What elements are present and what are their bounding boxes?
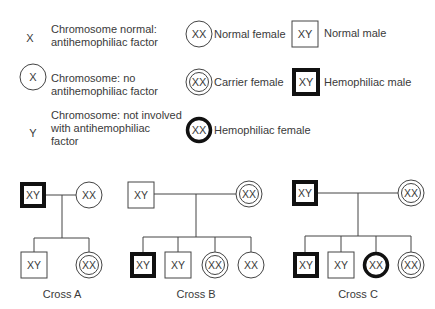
legend-y-desc-2: with antihemophiliac — [50, 122, 151, 134]
cross-c-child-1: XY — [299, 259, 313, 271]
cross-b-child-1: XY — [136, 259, 150, 271]
legend-normal-female-label: Normal female — [214, 28, 286, 40]
cross-c-child-2: XY — [334, 259, 348, 271]
cross-a-child-2: XX — [82, 259, 96, 271]
legend-normal-female-symbol: XX — [192, 28, 207, 40]
cross-a-child-1: XY — [27, 259, 41, 271]
legend-xo-label: X — [29, 71, 37, 83]
legend-x-desc-1: Chromosome normal: — [51, 23, 157, 35]
legend-carrier-female-label: Carrier female — [214, 76, 284, 88]
legend-x-label: X — [26, 32, 34, 44]
legend-xo-desc-1: Chromosome: no — [51, 72, 135, 84]
legend-hemo-female-symbol: XX — [192, 124, 207, 136]
legend-normal-male-symbol: XY — [298, 28, 313, 40]
cross-c-child-3: XX — [369, 259, 383, 271]
cross-b-child-2: XY — [171, 259, 185, 271]
legend-hemo-female-label: Hemophiliac female — [214, 124, 311, 136]
legend-hemo-male-symbol: XY — [299, 76, 314, 88]
legend-y-label: Y — [29, 127, 37, 139]
legend-x-desc-2: antihemophiliac factor — [51, 36, 158, 48]
legend-carrier-female-symbol: XX — [192, 76, 207, 88]
cross-b-mother: XX — [242, 188, 256, 200]
hemophilia-pedigree-diagram: X Chromosome normal: antihemophiliac fac… — [0, 0, 435, 309]
legend-hemo-male-label: Hemophiliac male — [324, 76, 411, 88]
cross-c-child-4: XX — [404, 259, 418, 271]
cross-a-label: Cross A — [43, 288, 82, 300]
cross-c-father: XY — [298, 187, 312, 199]
cross-b-child-4: XX — [244, 259, 258, 271]
cross-c-label: Cross C — [338, 288, 378, 300]
legend-xo-desc-2: antihemophiliac factor — [51, 85, 158, 97]
cross-a-mother: XX — [82, 189, 96, 201]
cross-b-label: Cross B — [176, 288, 215, 300]
legend-y-desc-1: Chromosome: not involved — [51, 109, 182, 121]
legend-normal-male-label: Normal male — [324, 27, 386, 39]
cross-c-mother: XX — [404, 187, 418, 199]
cross-a-father: XY — [26, 189, 40, 201]
cross-b-father: XY — [134, 189, 148, 201]
legend-y-desc-3: factor — [51, 135, 79, 147]
cross-b-child-3: XX — [208, 259, 222, 271]
